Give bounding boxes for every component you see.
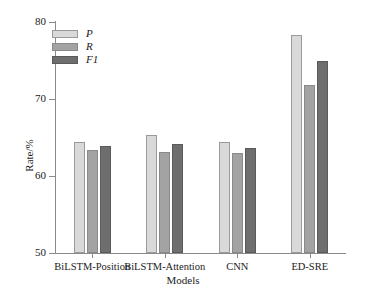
x-tick-mark bbox=[237, 253, 238, 258]
bar-bilstm-position-p bbox=[74, 142, 85, 253]
legend-swatch-p bbox=[52, 30, 78, 38]
legend-label-r: R bbox=[86, 41, 93, 52]
chart-legend: PRF1 bbox=[52, 28, 98, 67]
y-tick-label: 80 bbox=[0, 16, 46, 27]
y-axis-title: Rate/% bbox=[24, 121, 35, 191]
y-tick-mark bbox=[49, 22, 55, 23]
bar-bilstm-attention-f1 bbox=[172, 144, 183, 253]
x-axis-title: Models bbox=[0, 275, 366, 286]
legend-item-f1: F1 bbox=[52, 54, 98, 65]
legend-item-r: R bbox=[52, 41, 98, 52]
y-tick-mark bbox=[49, 99, 55, 100]
x-category-label: ED-SRE bbox=[250, 261, 366, 272]
legend-item-p: P bbox=[52, 28, 98, 39]
plot-area bbox=[56, 22, 346, 253]
bar-bilstm-attention-p bbox=[146, 135, 157, 253]
x-tick-mark bbox=[310, 253, 311, 258]
bar-bilstm-position-f1 bbox=[100, 146, 111, 253]
bar-bilstm-attention-r bbox=[159, 152, 170, 253]
legend-label-p: P bbox=[86, 28, 93, 39]
bar-ed-sre-r bbox=[304, 85, 315, 253]
legend-swatch-f1 bbox=[52, 56, 78, 64]
x-tick-mark bbox=[165, 253, 166, 258]
legend-label-f1: F1 bbox=[86, 54, 98, 65]
x-axis-line bbox=[55, 253, 346, 254]
bar-cnn-r bbox=[232, 153, 243, 253]
legend-swatch-r bbox=[52, 43, 78, 51]
bar-cnn-f1 bbox=[245, 148, 256, 253]
bar-ed-sre-p bbox=[291, 35, 302, 253]
y-tick-label: 70 bbox=[0, 93, 46, 104]
y-tick-mark bbox=[49, 176, 55, 177]
bar-ed-sre-f1 bbox=[317, 61, 328, 253]
bar-chart: 50607080 Rate/% BiLSTM-PositionBiLSTM-At… bbox=[0, 0, 366, 291]
bar-bilstm-position-r bbox=[87, 150, 98, 253]
x-tick-mark bbox=[92, 253, 93, 258]
bar-cnn-p bbox=[219, 142, 230, 253]
y-tick-label: 50 bbox=[0, 247, 46, 258]
y-tick-mark bbox=[49, 253, 55, 254]
